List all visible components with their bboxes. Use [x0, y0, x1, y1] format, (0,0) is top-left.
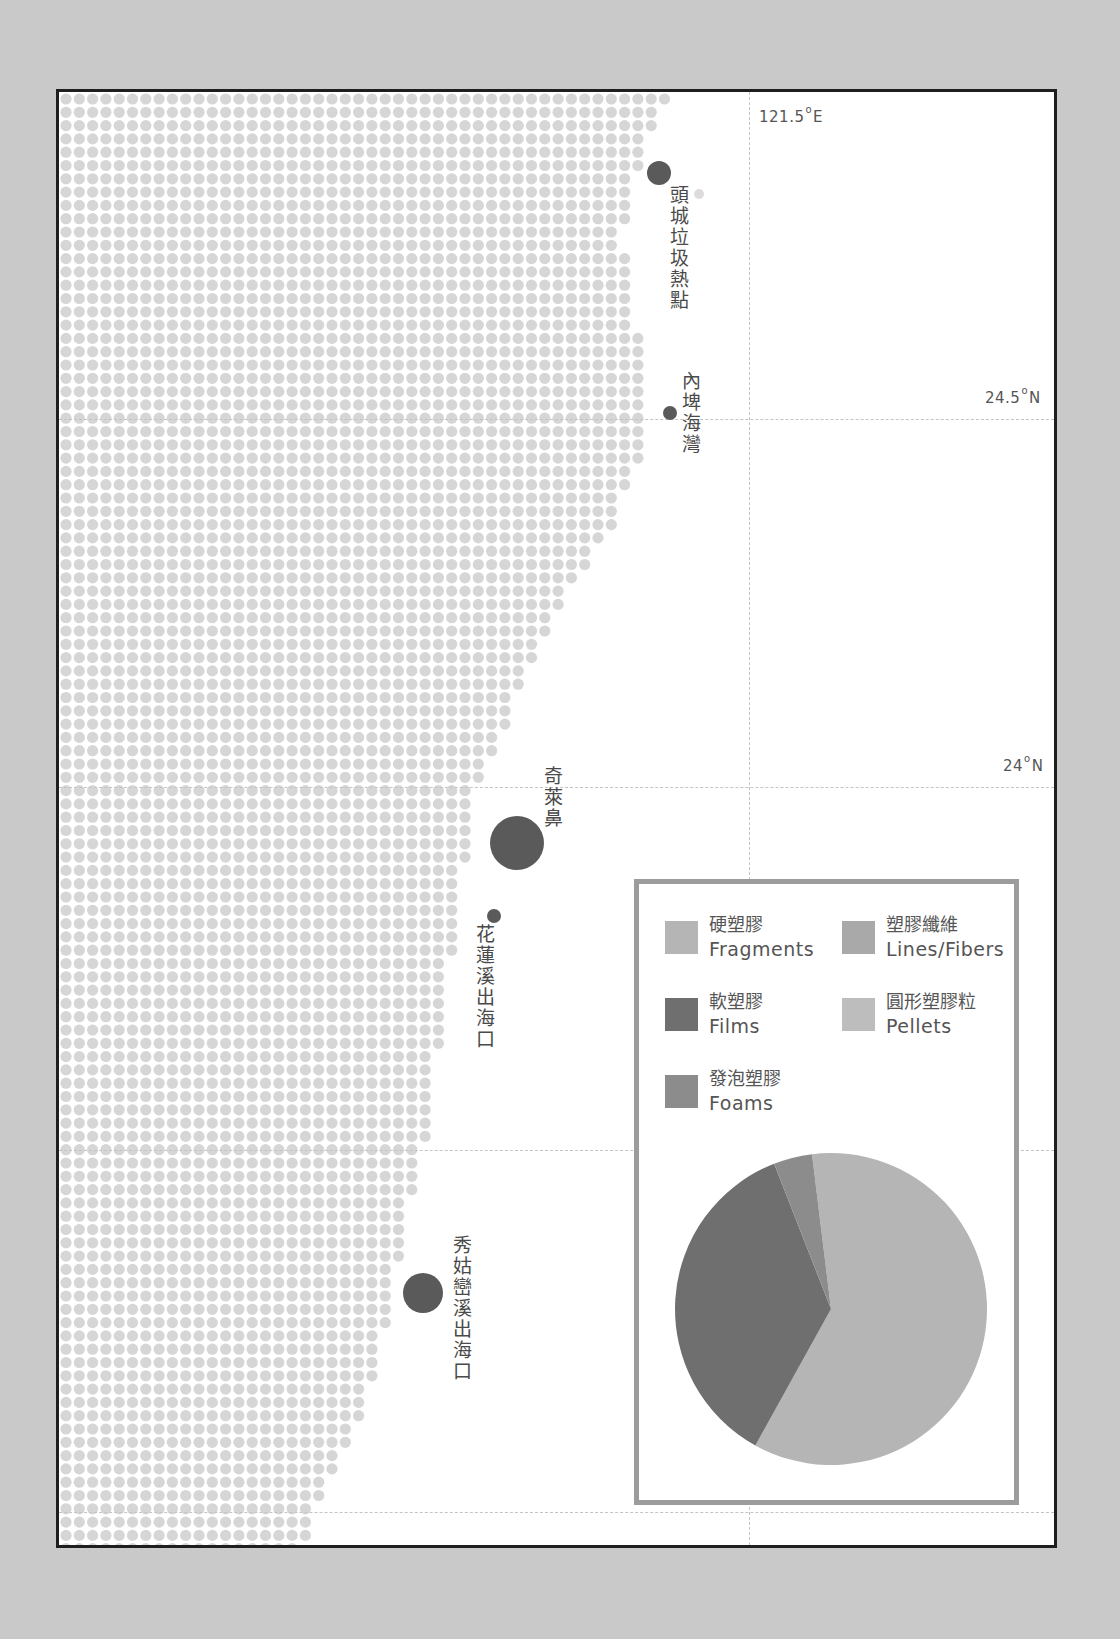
swatch-foams: [665, 1075, 698, 1108]
latitude-value: 24: [1003, 757, 1023, 775]
swatch-films: [665, 998, 698, 1031]
latitude-label-24-5: 24.5oN: [985, 385, 1041, 407]
legend-zh: 發泡塑膠: [709, 1066, 781, 1091]
latitude-value: 24.5: [985, 389, 1020, 407]
legend-zh: 圓形塑膠粒: [886, 989, 976, 1014]
degree-symbol: o: [805, 104, 812, 115]
latitude-suffix: N: [1032, 757, 1044, 775]
degree-symbol: o: [1024, 753, 1031, 764]
legend-zh: 塑膠纖維: [886, 912, 1004, 937]
legend-zh: 軟塑膠: [709, 989, 763, 1014]
legend-en: Pellets: [886, 1014, 976, 1039]
legend-en: Lines/Fibers: [886, 937, 1004, 962]
legend-item-fibers: 塑膠纖維Lines/Fibers: [842, 912, 1004, 962]
site-marker-xiuguluan[interactable]: [403, 1273, 443, 1313]
legend-item-pellets: 圓形塑膠粒Pellets: [842, 989, 976, 1039]
site-marker-hualien[interactable]: [487, 909, 501, 923]
site-label-toucheng: 頭城垃圾熱點: [668, 185, 688, 311]
latitude-gridline-24-5: [59, 419, 1054, 420]
legend-item-fragments: 硬塑膠Fragments: [665, 912, 814, 962]
legend-zh: 硬塑膠: [709, 912, 814, 937]
site-label-qilaibi: 奇萊鼻: [542, 766, 562, 829]
swatch-pellets: [842, 998, 875, 1031]
swatch-fragments: [665, 921, 698, 954]
composition-pie-chart: [673, 1151, 989, 1467]
degree-symbol: o: [1021, 385, 1028, 396]
legend-box: 硬塑膠Fragments 塑膠纖維Lines/Fibers 軟塑膠Films 圓…: [634, 879, 1019, 1505]
legend-item-foams: 發泡塑膠Foams: [665, 1066, 781, 1116]
latitude-suffix: N: [1029, 389, 1041, 407]
legend-en: Fragments: [709, 937, 814, 962]
site-label-xiuguluan: 秀姑巒溪出海口: [451, 1235, 471, 1382]
site-marker-toucheng[interactable]: [647, 161, 671, 185]
legend-en: Foams: [709, 1091, 781, 1116]
legend-en: Films: [709, 1014, 763, 1039]
latitude-label-24: 24oN: [1003, 753, 1043, 775]
swatch-fibers: [842, 921, 875, 954]
legend-item-films: 軟塑膠Films: [665, 989, 763, 1039]
longitude-label: 121.5oE: [759, 104, 823, 126]
site-label-hualien: 花蓮溪出海口: [474, 924, 494, 1050]
longitude-value: 121.5: [759, 108, 804, 126]
site-marker-neipi[interactable]: [663, 406, 677, 420]
site-label-neipi: 內埤海灣: [680, 371, 700, 455]
latitude-gridline-23: [59, 1512, 1054, 1513]
map-frame: 121.5oE 24.5oN 24oN 頭城垃圾熱點 內埤海灣 奇萊鼻 花蓮溪出…: [56, 89, 1057, 1548]
site-marker-qilaibi[interactable]: [490, 816, 544, 870]
longitude-suffix: E: [813, 108, 823, 126]
stray-dot: [694, 189, 704, 199]
